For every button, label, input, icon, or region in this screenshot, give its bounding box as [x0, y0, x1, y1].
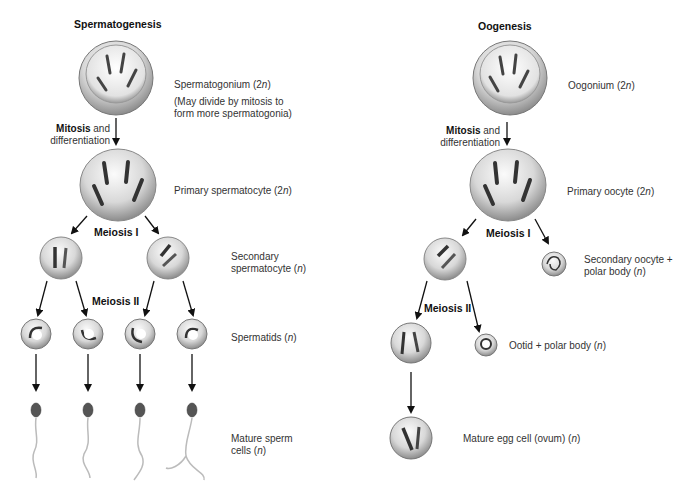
primary-oocyte-label: Primary oocyte (2n)	[567, 186, 654, 198]
secondary-spermatocyte-cell	[147, 237, 189, 279]
spermatid-cells	[21, 319, 207, 349]
mature-sperm-label: Mature sperm cells (n)	[231, 433, 293, 457]
primary-spermatocyte-cell	[80, 149, 156, 221]
spermatogonium-cell	[79, 41, 153, 115]
meiosis-1-label-right: Meiosis I	[486, 227, 530, 239]
mitosis-label-right: Mitosis and differentiation	[440, 125, 500, 149]
primary-oocyte-cell	[470, 149, 546, 221]
diagram-graphics	[0, 0, 699, 491]
ootid-label: Ootid + polar body (n)	[509, 340, 606, 352]
secondary-oocyte-cell	[424, 238, 466, 280]
meiosis-1-label-left: Meiosis I	[94, 226, 138, 238]
mature-sperm-cells	[31, 403, 204, 480]
spermatogonium-note: (May divide by mitosis to form more sper…	[174, 96, 292, 120]
spermatogenesis-title: Spermatogenesis	[74, 18, 162, 30]
mitosis-label-left: Mitosis and differentiation	[50, 123, 110, 147]
secondary-spermatocyte-label: Secondary spermatocyte (n)	[231, 251, 306, 275]
oogonium-cell	[473, 41, 547, 115]
mature-egg-label: Mature egg cell (ovum) (n)	[463, 433, 580, 445]
polar-body-cell	[542, 252, 566, 276]
primary-spermatocyte-label: Primary spermatocyte (2n)	[174, 185, 292, 197]
meiosis-2-label-left: Meiosis II	[92, 295, 139, 307]
secondary-oocyte-label: Secondary oocyte + polar body (n)	[584, 254, 673, 278]
oogenesis-title: Oogenesis	[478, 20, 532, 32]
mature-egg-cell	[390, 417, 432, 459]
oogonium-label: Oogonium (2n)	[568, 80, 635, 92]
meiosis-2-label-right: Meiosis II	[424, 302, 471, 314]
spermatids-label: Spermatids (n)	[231, 332, 297, 344]
polar-body-cell	[475, 334, 497, 356]
ootid-cell	[391, 323, 431, 363]
secondary-spermatocyte-cell	[40, 237, 82, 279]
spermatogonium-label: Spermatogonium (2n)	[174, 79, 271, 91]
